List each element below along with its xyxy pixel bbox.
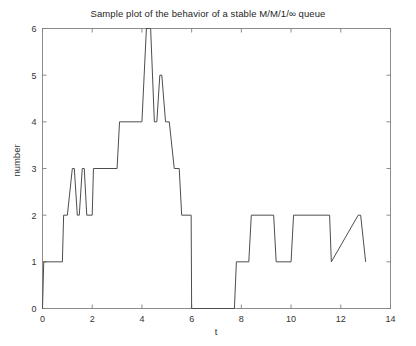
- x-tick-label: 14: [385, 314, 395, 324]
- x-axis-label: t: [196, 326, 236, 337]
- y-tick-label: 2: [31, 211, 36, 221]
- x-tick-label: 8: [239, 314, 244, 324]
- y-tick-label: 3: [31, 164, 36, 174]
- x-tick-label: 2: [90, 314, 95, 324]
- x-tick-label: 12: [336, 314, 346, 324]
- y-tick-label: 1: [31, 257, 36, 267]
- x-tick-label: 6: [189, 314, 194, 324]
- x-tick-label: 0: [40, 314, 45, 324]
- data-series-group: [43, 29, 366, 309]
- y-tick-label: 6: [31, 24, 36, 34]
- y-tick-label: 5: [31, 71, 36, 81]
- step-line-queue-length: [43, 29, 366, 309]
- figure-panel: Sample plot of the behavior of a stable …: [0, 0, 416, 346]
- y-tick-label: 0: [31, 304, 36, 314]
- x-tick-label: 10: [286, 314, 296, 324]
- y-tick-label: 4: [31, 117, 36, 127]
- y-axis-label: number: [11, 131, 22, 191]
- plot-canvas: 024681012140123456: [0, 0, 416, 346]
- x-tick-label: 4: [139, 314, 144, 324]
- tick-labels-group: 024681012140123456: [31, 24, 395, 324]
